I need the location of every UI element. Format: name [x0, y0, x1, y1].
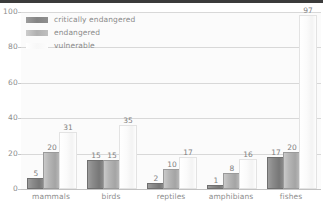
- bar-value-label: 17: [271, 149, 281, 157]
- y-tick-mark: [18, 12, 21, 13]
- legend-item[interactable]: endangered: [26, 27, 135, 38]
- bar-value-label: 20: [47, 144, 57, 152]
- legend-item-label: endangered: [54, 28, 100, 37]
- bar-value-label: 31: [63, 124, 73, 132]
- legend-item[interactable]: vulnerable: [26, 40, 135, 51]
- bar-group: 21017: [147, 12, 195, 189]
- bar[interactable]: 35: [119, 125, 137, 189]
- bar[interactable]: 31: [59, 132, 77, 189]
- bar-value-label: 8: [230, 165, 235, 173]
- legend-item-label: critically endangered: [54, 15, 135, 24]
- y-tick-label: 0: [0, 185, 18, 193]
- bar-value-label: 5: [34, 170, 39, 178]
- y-tick-label: 20: [0, 150, 18, 158]
- legend-swatch-icon: [26, 43, 48, 49]
- bar-chart: 020406080100 52031151535210171816172097 …: [0, 0, 323, 206]
- bar-value-label: 20: [287, 144, 297, 152]
- y-tick-mark: [18, 189, 21, 190]
- y-tick-mark: [18, 118, 21, 119]
- x-tick-label: birds: [81, 192, 141, 201]
- bar-value-label: 1: [214, 177, 219, 185]
- bar[interactable]: 17: [179, 157, 197, 189]
- legend-item-label: vulnerable: [54, 41, 95, 50]
- bar[interactable]: 97: [299, 15, 317, 189]
- y-tick-label: 60: [0, 79, 18, 87]
- bar-value-label: 2: [154, 175, 159, 183]
- x-tick-label: reptiles: [141, 192, 201, 201]
- bar-value-label: 16: [243, 151, 253, 159]
- y-tick-label: 100: [0, 8, 18, 16]
- legend-item[interactable]: critically endangered: [26, 14, 135, 25]
- x-tick-label: amphibians: [201, 192, 261, 201]
- y-tick-mark: [18, 83, 21, 84]
- y-tick-label: 40: [0, 114, 18, 122]
- bar-group: 1816: [207, 12, 255, 189]
- bar-value-label: 17: [183, 149, 193, 157]
- bar[interactable]: 16: [239, 159, 257, 189]
- bar-value-label: 35: [123, 117, 133, 125]
- legend-swatch-icon: [26, 17, 48, 23]
- top-border-band: [0, 0, 323, 3]
- bar-group: 172097: [267, 12, 315, 189]
- gridline: [21, 189, 321, 190]
- bar-value-label: 15: [91, 152, 101, 160]
- bar-value-label: 15: [107, 152, 117, 160]
- chart-legend: critically endangeredendangeredvulnerabl…: [26, 14, 135, 53]
- y-tick-mark: [18, 154, 21, 155]
- y-tick-mark: [18, 47, 21, 48]
- y-tick-label: 80: [0, 43, 18, 51]
- legend-swatch-icon: [26, 30, 48, 36]
- x-tick-label: mammals: [21, 192, 81, 201]
- x-tick-label: fishes: [261, 192, 321, 201]
- bar-value-label: 10: [167, 161, 177, 169]
- bar-value-label: 97: [303, 7, 313, 15]
